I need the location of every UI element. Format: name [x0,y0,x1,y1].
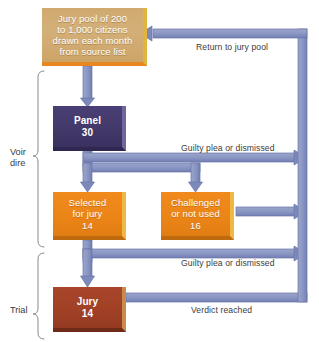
jury-pool-box[interactable]: Jury pool of 200 to 1,000 citizens drawn… [42,8,147,66]
selected-count: 14 [82,220,93,231]
edge-label-guilty-plea-selected: Guilty plea or dismissed [181,258,275,268]
edge-label-verdict-reached: Verdict reached [191,305,252,315]
jury-pool-line-2: to 1,000 citizens [57,24,127,35]
voir-dire-line-1: Voir [10,147,38,158]
bracket-trial [33,253,44,339]
group-label-voir-dire: Voir dire [10,147,38,168]
jury-count: 14 [82,308,93,320]
panel-box[interactable]: Panel 30 [53,106,126,151]
connector-pool-to-panel [81,66,95,107]
jury-pool-line-3: drawn each month [53,35,133,46]
panel-label: Panel [74,115,101,127]
connector-challenged-to-bus [236,204,306,219]
jury-box[interactable]: Jury 14 [53,287,126,332]
edge-label-return-to-jury-pool: Return to jury pool [196,42,268,52]
jury-flow-diagram: Jury pool of 200 to 1,000 citizens drawn… [0,0,319,342]
selected-for-jury-box[interactable]: Selected for jury 14 [53,192,126,240]
selected-line-1: Selected [69,197,107,208]
selected-line-2: for jury [73,208,103,219]
jury-pool-line-4: from source list [59,46,125,57]
challenged-line-2: or not used [171,208,220,219]
group-label-trial: Trial [10,305,38,316]
challenged-count: 16 [190,220,201,231]
panel-count: 30 [82,127,93,139]
challenged-or-not-used-box[interactable]: Challenged or not used 16 [161,192,234,240]
challenged-line-1: Challenged [171,197,220,208]
jury-pool-line-1: Jury pool of 200 [58,13,127,24]
edge-label-guilty-plea-panel: Guilty plea or dismissed [181,143,275,153]
connector-jury-verdict [126,293,307,302]
jury-label: Jury [77,296,99,308]
voir-dire-line-2: dire [10,158,38,169]
